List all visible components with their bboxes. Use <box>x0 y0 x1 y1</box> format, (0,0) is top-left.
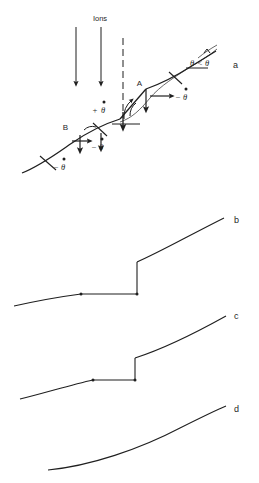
panel-d: d <box>48 404 239 470</box>
angle-inequality-annotation: θ < θ <box>190 49 210 68</box>
ion-beam-arrows <box>76 27 101 84</box>
theta-symbol-right: θ <box>205 58 209 68</box>
panel-b: b <box>14 215 239 306</box>
panel-c: c <box>20 311 239 399</box>
curve-c-left <box>20 380 93 399</box>
theta-dot-negative-lower-annotation: − θ <box>53 158 66 173</box>
minus-symbol-A: − <box>175 92 181 102</box>
theta-dot-negative-A-annotation: − θ <box>175 88 188 103</box>
panel-a: A B Ions θ < θ + θ − θ − θ <box>22 14 238 173</box>
theta-dot-positive-annotation: + θ <box>92 101 106 116</box>
scientific-figure: A B Ions θ < θ + θ − θ − θ <box>0 0 259 483</box>
point-label-A: A <box>137 79 143 88</box>
theta-dot-negative-B-annotation: − θ <box>91 138 104 153</box>
minus-symbol-B: − <box>91 142 97 152</box>
dot-accent-icon-A <box>185 88 188 91</box>
plus-symbol: + <box>92 105 98 115</box>
dot-accent-icon-B <box>101 138 104 141</box>
curve-b-marker-step <box>136 293 139 296</box>
curve-b-right <box>137 218 224 262</box>
panel-label-c: c <box>234 311 239 321</box>
theta-symbol-lower: θ <box>61 162 65 172</box>
curve-b-left <box>14 294 81 306</box>
panel-label-a: a <box>233 60 238 70</box>
figure-canvas: A B Ions θ < θ + θ − θ − θ <box>0 0 259 483</box>
theta-symbol-plus: θ <box>101 105 105 115</box>
panel-label-d: d <box>234 404 239 414</box>
point-label-B: B <box>63 123 68 132</box>
theta-symbol-left: θ <box>190 58 194 68</box>
curve-c-marker-left <box>92 379 95 382</box>
less-than-symbol: < <box>197 58 203 68</box>
dot-accent-icon-lower <box>63 158 66 161</box>
curve-c-marker-step <box>134 379 137 382</box>
surface-lower-segment <box>22 119 120 173</box>
curve-d <box>48 406 226 470</box>
curve-b-marker-left <box>80 293 83 296</box>
theta-symbol-B: θ <box>99 142 103 152</box>
dot-accent-icon-plus <box>103 101 106 104</box>
theta-symbol-A: θ <box>183 92 187 102</box>
panel-label-b: b <box>234 215 239 225</box>
curve-c-right <box>135 316 226 358</box>
ions-label: Ions <box>93 14 107 23</box>
minus-symbol-lower: − <box>53 162 59 172</box>
